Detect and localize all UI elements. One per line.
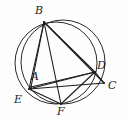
vertex-label-E: E [14, 94, 22, 105]
vertex-label-D: D [97, 60, 106, 71]
vertex-point-B [43, 21, 45, 23]
vertex-point-C [103, 82, 105, 84]
vertex-label-C: C [108, 80, 116, 91]
circles-group [15, 20, 105, 104]
vertex-point-D [94, 71, 96, 73]
vertex-label-B: B [35, 5, 43, 16]
geometry-figure: ABCDEF [0, 0, 127, 121]
vertex-point-A [30, 86, 32, 88]
vertex-point-E [28, 88, 30, 90]
segment-BF [44, 22, 61, 104]
vertex-label-F: F [57, 106, 65, 117]
segment-EF [29, 89, 61, 104]
segment-DC [95, 72, 104, 83]
vertex-label-A: A [31, 71, 39, 82]
segment-BC [44, 22, 104, 83]
